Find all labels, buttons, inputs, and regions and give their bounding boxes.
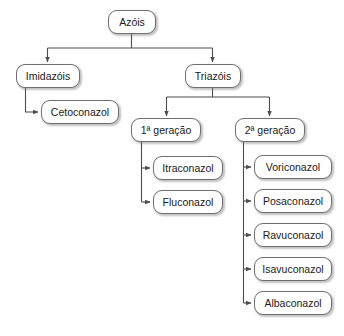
node-isavuconazol[interactable]: Isavuconazol bbox=[254, 257, 332, 281]
node-geracao2-label: 2ª geração bbox=[245, 124, 296, 135]
edge-imidazois-cetoconazol bbox=[26, 88, 39, 112]
node-ravuconazol-label: Ravuconazol bbox=[263, 229, 324, 240]
node-albaconazol[interactable]: Albaconazol bbox=[254, 291, 332, 315]
node-fluconazol-label: Fluconazol bbox=[163, 196, 214, 207]
node-triazois[interactable]: Triazóis bbox=[185, 64, 241, 88]
node-geracao2[interactable]: 2ª geração bbox=[235, 118, 305, 142]
node-triazois-label: Triazóis bbox=[195, 70, 231, 81]
node-geracao1[interactable]: 1ª geração bbox=[131, 118, 201, 142]
node-itraconazol-label: Itraconazol bbox=[162, 162, 213, 173]
node-voriconazol[interactable]: Voriconazol bbox=[254, 155, 332, 179]
node-imidazois[interactable]: Imidazóis bbox=[16, 64, 80, 88]
node-albaconazol-label: Albaconazol bbox=[264, 297, 321, 308]
node-cetoconazol[interactable]: Cetoconazol bbox=[41, 100, 119, 124]
node-posaconazol-label: Posaconazol bbox=[263, 195, 323, 206]
node-isavuconazol-label: Isavuconazol bbox=[262, 263, 323, 274]
node-cetoconazol-label: Cetoconazol bbox=[51, 106, 109, 117]
node-itraconazol[interactable]: Itraconazol bbox=[153, 156, 223, 180]
node-imidazois-label: Imidazóis bbox=[26, 70, 70, 81]
node-ravuconazol[interactable]: Ravuconazol bbox=[254, 223, 332, 247]
node-fluconazol[interactable]: Fluconazol bbox=[153, 190, 223, 214]
node-posaconazol[interactable]: Posaconazol bbox=[254, 189, 332, 213]
node-azois[interactable]: Azóis bbox=[108, 10, 156, 34]
node-azois-label: Azóis bbox=[119, 16, 145, 27]
azole-classification-diagram: Azóis Imidazóis Triazóis Cetoconazol 1ª … bbox=[0, 0, 344, 336]
node-voriconazol-label: Voriconazol bbox=[266, 161, 320, 172]
node-geracao1-label: 1ª geração bbox=[141, 124, 192, 135]
